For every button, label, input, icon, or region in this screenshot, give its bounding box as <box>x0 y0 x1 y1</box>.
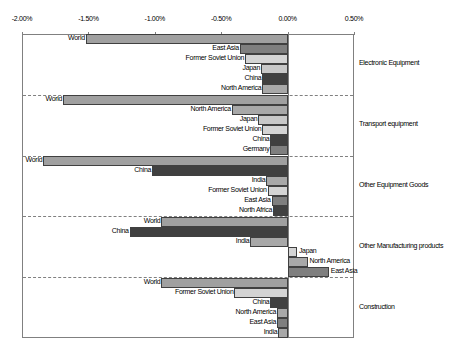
horizontal-bar-chart: -2.00%-1.50%-1.00%-0.50%0.00%0.50% World… <box>0 0 452 355</box>
bar-label: India <box>252 175 266 185</box>
bar-label: North America <box>310 256 350 266</box>
category-label: Other Manufacturing products <box>359 242 443 249</box>
bar-label: Japan <box>240 114 258 124</box>
bar <box>152 166 287 176</box>
bar <box>262 74 287 84</box>
bar <box>261 64 288 74</box>
bar <box>266 176 287 186</box>
bar-label: China <box>245 73 262 83</box>
zero-axis-line <box>288 35 289 337</box>
bar-label: North America <box>190 104 230 114</box>
bar-label: China <box>253 134 270 144</box>
bar <box>277 308 288 318</box>
bar <box>277 318 288 328</box>
bar-label: Japan <box>242 63 260 73</box>
bar <box>262 84 287 94</box>
bar <box>130 227 288 237</box>
bar-label: Former Soviet Union <box>186 53 245 63</box>
bar-label: World <box>26 155 43 165</box>
bar-label: Germany <box>243 144 270 154</box>
bar <box>288 257 308 267</box>
bar <box>63 95 287 105</box>
bar <box>270 135 287 145</box>
bar-label: World <box>46 94 63 104</box>
bar <box>270 145 287 155</box>
category-label: Electronic Equipment <box>359 59 419 66</box>
x-tick-label: -0.50% <box>211 15 231 22</box>
bar-label: China <box>253 297 270 307</box>
category-label: Transport equipment <box>359 120 418 127</box>
bar <box>272 196 288 206</box>
bar-label: East Asia <box>250 317 276 327</box>
bar <box>288 247 297 257</box>
bar <box>288 267 329 277</box>
x-tick-label: -1.50% <box>78 15 98 22</box>
bar-label: East Asia <box>331 266 357 276</box>
bar-label: World <box>144 216 161 226</box>
bar <box>240 44 288 54</box>
bar <box>250 237 287 247</box>
bar-label: Former Soviet Union <box>203 124 262 134</box>
bar-label: World <box>144 277 161 287</box>
bar <box>258 115 287 125</box>
bar <box>161 217 287 227</box>
bar <box>273 206 288 216</box>
bar-label: East Asia <box>244 195 270 205</box>
category-label: Other Equipment Goods <box>359 181 428 188</box>
bar <box>278 328 287 338</box>
bar-label: Former Soviet Union <box>208 185 267 195</box>
x-tick-label: -2.00% <box>12 15 32 22</box>
bar-label: World <box>68 33 85 43</box>
bar-label: North Africa <box>239 205 272 215</box>
bar-label: North America <box>221 83 261 93</box>
bar-label: China <box>134 165 151 175</box>
bar-label: China <box>112 226 129 236</box>
category-label: Construction <box>359 303 395 310</box>
x-tick-label: -1.00% <box>145 15 165 22</box>
bar-label: Former Soviet Union <box>175 287 234 297</box>
bar-label: North America <box>236 307 276 317</box>
x-tick-label: 0.50% <box>345 15 363 22</box>
x-tick-mark <box>354 32 355 35</box>
bar <box>43 156 287 166</box>
bar <box>86 34 288 44</box>
bar-label: India <box>236 236 250 246</box>
bar-label: East Asia <box>212 43 238 53</box>
x-tick-label: 0.00% <box>278 15 296 22</box>
bar-label: Japan <box>299 246 317 256</box>
bar-label: India <box>264 327 278 337</box>
